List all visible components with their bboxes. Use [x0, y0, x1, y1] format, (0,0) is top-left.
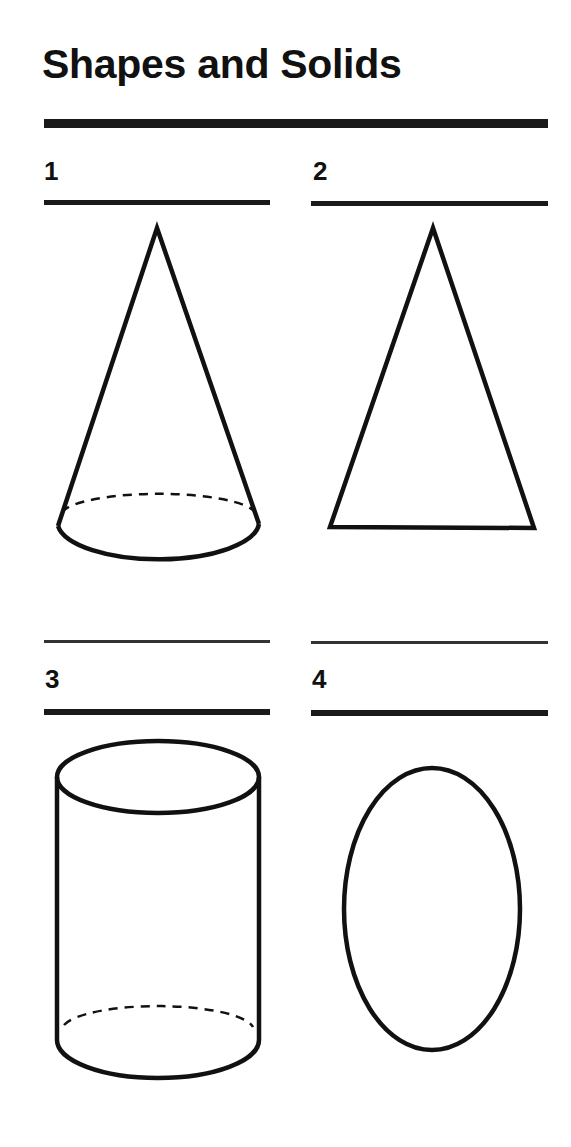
- cone-base-hidden-arc: [62, 494, 255, 512]
- cylinder-bottom-hidden-arc: [64, 1006, 253, 1027]
- triangle-figure: [330, 228, 534, 528]
- cylinder-figure: [57, 741, 259, 1078]
- cylinder-top-ellipse: [57, 741, 259, 813]
- cone-base-front-arc: [58, 524, 259, 559]
- ellipse-figure: [344, 768, 520, 1050]
- cone-sides: [58, 228, 259, 526]
- cone-figure: [58, 228, 259, 559]
- cylinder-bottom-front-arc: [57, 1040, 259, 1078]
